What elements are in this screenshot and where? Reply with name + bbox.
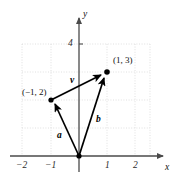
point-label-neg1-2: (−1, 2) xyxy=(22,88,47,97)
vector-label-v: v xyxy=(70,76,74,86)
point-label-1-3: (1, 3) xyxy=(113,56,133,65)
point-neg1-2 xyxy=(48,97,53,102)
y-tick-4: 4 xyxy=(68,39,73,49)
x-axis-label: x xyxy=(165,163,169,173)
vector-diagram-figure: x y −2 −1 1 2 4 (−1, 2) (1, 3) a b v xyxy=(0,0,179,182)
x-tick-1: 1 xyxy=(105,161,110,171)
point-origin xyxy=(76,153,81,158)
vector-label-b: b xyxy=(96,115,101,125)
point-1-3 xyxy=(104,69,110,75)
x-tick-2: 2 xyxy=(133,161,138,171)
x-tick-neg1: −1 xyxy=(45,161,56,171)
vector-label-a: a xyxy=(57,131,62,141)
x-tick-neg2: −2 xyxy=(16,161,27,171)
y-axis-label: y xyxy=(83,10,87,20)
vector-v xyxy=(51,75,101,100)
